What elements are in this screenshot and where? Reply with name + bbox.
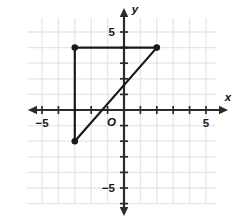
x-tick-label: −5 — [35, 117, 49, 129]
vertex-point — [154, 44, 161, 51]
x-tick-label: 5 — [203, 117, 210, 129]
vertex-point — [72, 44, 79, 51]
origin-label: O — [107, 116, 116, 128]
y-tick-label: −5 — [102, 182, 116, 194]
x-axis-label: x — [224, 91, 232, 103]
coordinate-plane-figure: −555−5O xy — [0, 0, 243, 221]
vertex-point — [72, 138, 79, 145]
coordinate-plane-svg: −555−5O xy — [0, 0, 243, 221]
y-axis-label: y — [131, 3, 139, 15]
y-tick-label: 5 — [109, 26, 116, 38]
